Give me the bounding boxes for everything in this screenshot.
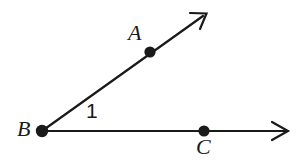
canvas-background — [0, 0, 298, 167]
point-label-c: C — [196, 136, 211, 158]
vertex-dot-b — [36, 125, 48, 137]
point-label-b: B — [17, 118, 30, 140]
angle-label-1: 1 — [86, 100, 98, 121]
point-label-a: A — [128, 22, 141, 44]
point-dot-a — [144, 46, 155, 57]
geometry-figure: A B C 1 — [0, 0, 298, 167]
geometry-canvas — [0, 0, 298, 167]
